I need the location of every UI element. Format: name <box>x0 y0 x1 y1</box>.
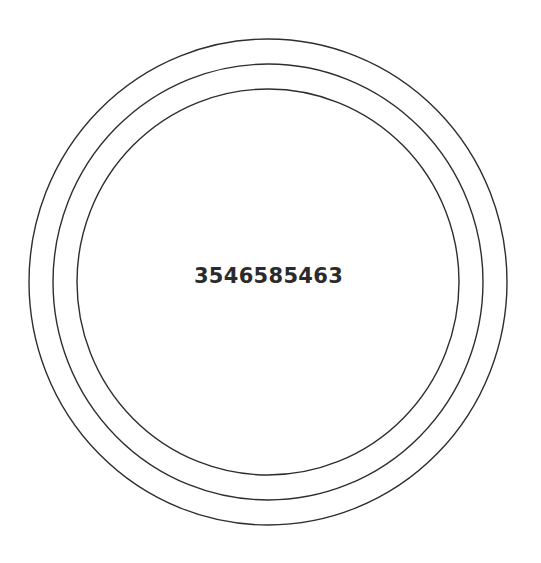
center-number: 3546585463 <box>0 264 537 288</box>
